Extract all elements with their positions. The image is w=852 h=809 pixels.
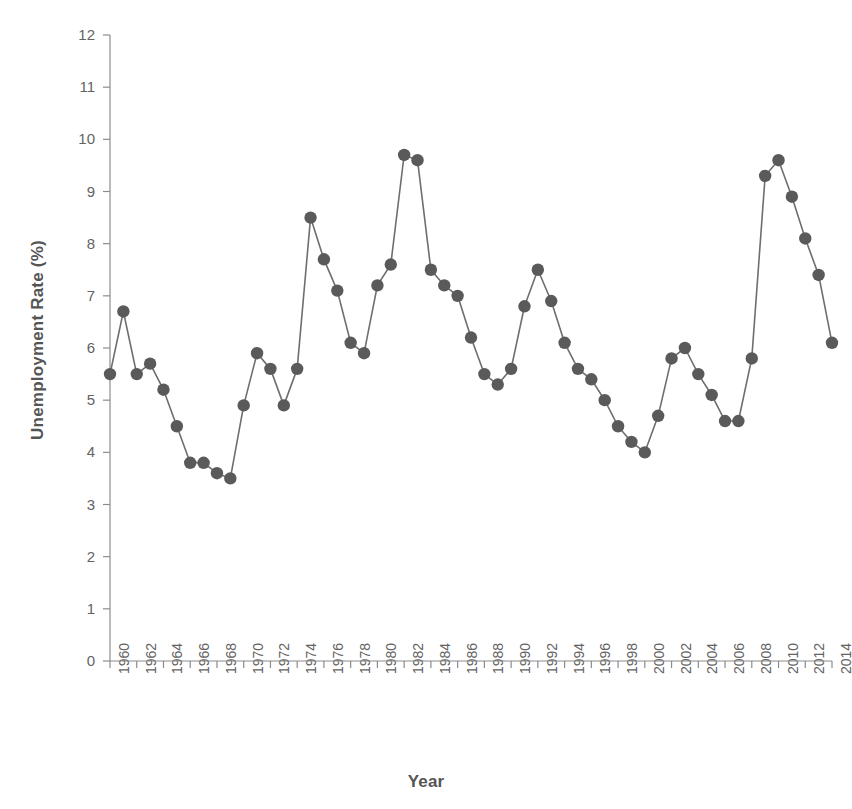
data-point [679,342,691,354]
data-point [759,170,771,182]
data-point [826,337,838,349]
data-point [478,368,490,380]
data-point [505,363,517,375]
data-point [532,264,544,276]
data-point [599,394,611,406]
data-point [184,457,196,469]
data-point [278,399,290,411]
data-point [585,373,597,385]
data-point [211,467,223,479]
data-point [358,347,370,359]
data-point [344,337,356,349]
data-point [411,154,423,166]
data-point [665,352,677,364]
data-point [171,420,183,432]
data-point [572,363,584,375]
data-point [291,363,303,375]
data-point [331,284,343,296]
data-point [238,399,250,411]
data-point [398,149,410,161]
data-point [264,363,276,375]
data-point [451,290,463,302]
data-point [545,295,557,307]
data-point [612,420,624,432]
data-point [558,337,570,349]
data-point [465,331,477,343]
data-point [492,378,504,390]
data-point [318,253,330,265]
y-axis-ticks [103,35,110,661]
data-point [625,436,637,448]
data-point [304,211,316,223]
data-point [786,191,798,203]
data-point [251,347,263,359]
data-point [131,368,143,380]
data-point [371,279,383,291]
plot-area [0,0,852,809]
data-point [719,415,731,427]
data-point [197,457,209,469]
unemployment-rate-line-chart: Unemployment Rate (%) Year 0123456789101… [0,0,852,809]
data-point [652,410,664,422]
data-point [692,368,704,380]
data-point [746,352,758,364]
data-point [438,279,450,291]
data-point [144,357,156,369]
data-point [705,389,717,401]
x-axis-ticks [110,661,832,668]
data-point [732,415,744,427]
data-point [639,446,651,458]
data-line [110,155,832,478]
data-markers [104,149,838,485]
data-point [224,472,236,484]
data-point [385,258,397,270]
data-point [425,264,437,276]
data-point [799,232,811,244]
axis-lines [110,35,832,661]
data-point [772,154,784,166]
data-point [104,368,116,380]
data-point [812,269,824,281]
data-point [157,384,169,396]
data-point [518,300,530,312]
data-point [117,305,129,317]
